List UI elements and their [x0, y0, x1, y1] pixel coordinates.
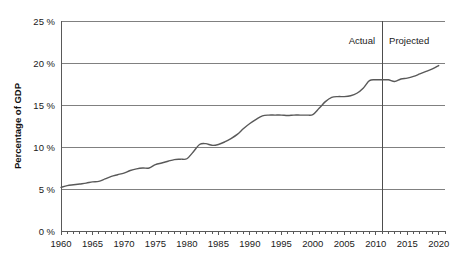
x-tick-label-1980: 1980 — [176, 238, 197, 249]
x-tick-label-2010: 2010 — [365, 238, 386, 249]
y-axis-title: Percentage of GDP — [12, 82, 23, 169]
x-tick-label-1995: 1995 — [271, 238, 292, 249]
y-axis-tick-labels: 25 %20 %15 %10 %5 %0 % — [33, 16, 55, 237]
x-axis-tick-labels: 1960196519701975198019851990199520002005… — [50, 238, 449, 249]
x-tick-label-2020: 2020 — [428, 238, 449, 249]
x-tick-label-2015: 2015 — [397, 238, 418, 249]
gdp-percentage-line-chart: 25 %20 %15 %10 %5 %0 % 19601965197019751… — [0, 0, 459, 262]
x-tick-label-1985: 1985 — [208, 238, 229, 249]
y-tick-label-10: 10 % — [33, 142, 55, 153]
y-tick-label-15: 15 % — [33, 100, 55, 111]
y-tick-label-5: 5 % — [39, 184, 56, 195]
y-tick-label-20: 20 % — [33, 58, 55, 69]
actual-region-label: Actual — [349, 35, 375, 46]
x-tick-label-2000: 2000 — [302, 238, 323, 249]
y-tick-label-25: 25 % — [33, 16, 55, 27]
y-tick-label-0: 0 % — [39, 226, 56, 237]
gridlines — [61, 21, 445, 231]
chart-container: 25 %20 %15 %10 %5 %0 % 19601965197019751… — [0, 0, 459, 262]
x-tick-label-1970: 1970 — [113, 238, 134, 249]
y-axis-title-group: Percentage of GDP — [12, 82, 23, 169]
x-tick-label-1965: 1965 — [82, 238, 103, 249]
x-tick-label-1990: 1990 — [239, 238, 260, 249]
region-annotations: ActualProjected — [349, 35, 430, 46]
projected-region-label: Projected — [389, 35, 429, 46]
x-tick-label-1960: 1960 — [50, 238, 71, 249]
x-tick-label-2005: 2005 — [334, 238, 355, 249]
x-tick-label-1975: 1975 — [145, 238, 166, 249]
